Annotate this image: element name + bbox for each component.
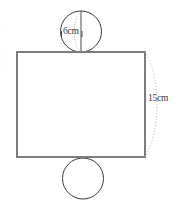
bottom-base-circle — [63, 158, 104, 199]
lateral-surface-rectangle — [17, 52, 145, 157]
geometry-figure-container: 6cm 15cm ···· — [0, 0, 191, 211]
height-label: 15cm — [148, 93, 169, 103]
figure-canvas: 6cm 15cm ···· — [0, 0, 191, 211]
left-edge-artifact-0: · — [1, 26, 4, 35]
diameter-label: 6cm — [63, 26, 80, 36]
left-edge-artifact-3: · — [1, 61, 4, 70]
left-edge-artifacts: ···· — [1, 26, 4, 70]
